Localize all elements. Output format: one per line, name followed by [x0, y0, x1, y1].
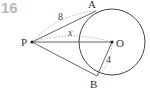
tangent-pa [32, 11, 96, 42]
tangent-circle-diagram: 16 P O A B 8 x 4 [0, 0, 150, 89]
label-pa-length: 8 [58, 11, 63, 22]
label-po-length: x [67, 27, 73, 38]
label-ob-length: 4 [106, 54, 111, 65]
tangent-pb [32, 42, 97, 76]
label-o: O [116, 37, 124, 49]
point-o-dot [110, 40, 113, 43]
label-a: A [88, 0, 96, 10]
label-b: B [90, 78, 97, 89]
problem-number: 16 [1, 0, 18, 16]
point-p-dot [30, 40, 33, 43]
label-p: P [21, 36, 27, 48]
